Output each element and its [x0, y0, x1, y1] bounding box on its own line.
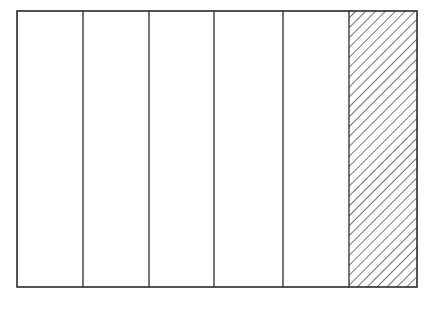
unshaded-part: [83, 11, 149, 287]
shaded-part: [349, 11, 417, 287]
unshaded-part: [17, 11, 83, 287]
fraction-bar-diagram: [0, 0, 434, 311]
unshaded-part: [214, 11, 283, 287]
unshaded-part: [149, 11, 214, 287]
unshaded-part: [283, 11, 349, 287]
fraction-parts: [17, 11, 417, 287]
